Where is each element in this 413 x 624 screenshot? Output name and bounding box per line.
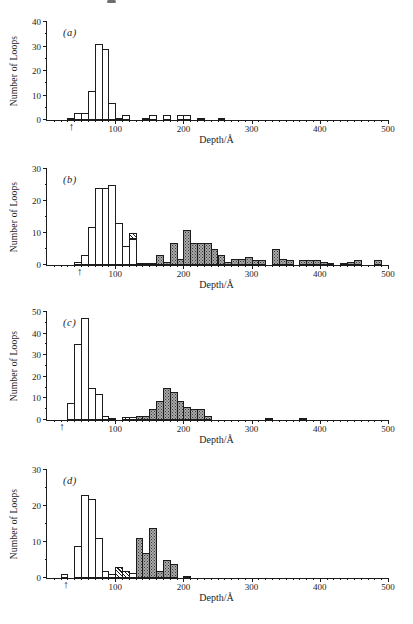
x-axis-minor-tick <box>245 265 246 267</box>
x-axis-minor-tick <box>272 578 273 580</box>
x-tick-label: 300 <box>245 124 259 134</box>
x-axis-minor-tick <box>272 420 273 422</box>
x-axis-minor-tick <box>286 420 287 422</box>
x-axis-minor-tick <box>211 578 212 580</box>
x-axis-minor-tick <box>347 120 348 122</box>
y-axis-minor-tick <box>45 343 48 344</box>
x-axis-minor-tick <box>313 420 314 422</box>
y-axis-major-tick <box>43 311 48 312</box>
x-tick-label: 100 <box>108 124 122 134</box>
x-axis-minor-tick <box>81 120 82 122</box>
depth-axis-label-d: Depth/Å <box>199 592 233 603</box>
x-axis-minor-tick <box>197 265 198 267</box>
scan-artifact <box>107 0 116 3</box>
y-axis-minor-tick <box>45 58 48 59</box>
x-tick-label: 100 <box>108 424 122 434</box>
bar-open-a <box>149 115 157 120</box>
x-axis-minor-tick <box>204 578 205 580</box>
x-axis-minor-tick <box>102 578 103 580</box>
x-axis-minor-tick <box>272 265 273 267</box>
y-tick-label: 10 <box>32 538 41 547</box>
arrow-marker-b: ↑ <box>77 266 83 276</box>
x-tick-label: 500 <box>381 269 395 279</box>
x-axis-minor-tick <box>340 120 341 122</box>
x-axis-minor-tick <box>108 578 109 580</box>
x-axis-minor-tick <box>381 265 382 267</box>
x-axis-minor-tick <box>170 265 171 267</box>
y-tick-label: 20 <box>32 502 41 511</box>
x-axis-minor-tick <box>190 420 191 422</box>
x-tick-label: 300 <box>245 582 259 592</box>
x-axis-minor-tick <box>61 265 62 267</box>
y-tick-label: 0 <box>37 261 42 270</box>
x-axis-minor-tick <box>108 420 109 422</box>
x-axis-minor-tick <box>327 420 328 422</box>
y-axis-major-tick <box>43 46 48 47</box>
y-axis-minor-tick <box>45 33 48 34</box>
bar-open-a <box>183 115 191 120</box>
y-tick-label: 10 <box>32 229 41 238</box>
x-axis-minor-tick <box>177 265 178 267</box>
y-axis-major-tick <box>43 21 48 22</box>
x-tick-label: 500 <box>381 582 395 592</box>
x-axis-minor-tick <box>306 120 307 122</box>
bar-open-a <box>163 115 171 120</box>
x-axis-minor-tick <box>368 420 369 422</box>
loops-axis-label-a: Number of Loops <box>9 36 19 107</box>
x-axis-minor-tick <box>381 120 382 122</box>
x-axis-minor-tick <box>190 265 191 267</box>
y-axis-major-tick <box>43 232 48 233</box>
y-tick-label: 0 <box>37 416 42 425</box>
x-tick-label: 400 <box>313 269 327 279</box>
depth-axis-label-a: Depth/Å <box>199 134 233 145</box>
bar-shaded-b <box>327 263 335 265</box>
x-axis-minor-tick <box>368 265 369 267</box>
x-axis-minor-tick <box>286 120 287 122</box>
y-axis-minor-tick <box>45 523 48 524</box>
x-axis-minor-tick <box>333 420 334 422</box>
x-axis-minor-tick <box>74 120 75 122</box>
x-axis-minor-tick <box>74 420 75 422</box>
y-axis-minor-tick <box>45 216 48 217</box>
y-axis-major-tick <box>43 95 48 96</box>
x-axis-minor-tick <box>374 578 375 580</box>
plot-area-a: 010203040100200300400500(a)↑ <box>46 22 388 121</box>
x-axis-minor-tick <box>149 420 150 422</box>
x-axis-minor-tick <box>333 265 334 267</box>
x-axis-minor-tick <box>374 120 375 122</box>
x-axis-minor-tick <box>142 420 143 422</box>
x-axis-minor-tick <box>136 265 137 267</box>
y-axis-minor-tick <box>45 82 48 83</box>
x-axis-minor-tick <box>54 420 55 422</box>
x-axis-minor-tick <box>197 420 198 422</box>
y-axis-major-tick <box>43 469 48 470</box>
x-axis-minor-tick <box>204 120 205 122</box>
x-axis-minor-tick <box>313 265 314 267</box>
x-axis-minor-tick <box>177 120 178 122</box>
x-tick-label: 100 <box>108 269 122 279</box>
x-axis-minor-tick <box>54 265 55 267</box>
plot-area-d: 0102030100200300400500(d)↑ <box>46 470 388 579</box>
x-axis-minor-tick <box>170 120 171 122</box>
x-axis-minor-tick <box>102 420 103 422</box>
x-axis-minor-tick <box>88 420 89 422</box>
x-axis-minor-tick <box>231 578 232 580</box>
x-axis-minor-tick <box>74 578 75 580</box>
bar-shaded-d <box>170 564 178 578</box>
x-axis-minor-tick <box>245 120 246 122</box>
y-axis-major-tick <box>43 200 48 201</box>
x-axis-minor-tick <box>142 120 143 122</box>
y-axis-major-tick <box>43 333 48 334</box>
x-axis-minor-tick <box>88 578 89 580</box>
plot-area-b: 0102030100200300400500(b)↑ <box>46 169 388 266</box>
x-axis-minor-tick <box>74 265 75 267</box>
x-axis-minor-tick <box>224 120 225 122</box>
x-axis-minor-tick <box>306 578 307 580</box>
x-axis-minor-tick <box>102 120 103 122</box>
x-axis-minor-tick <box>279 420 280 422</box>
x-axis-minor-tick <box>197 578 198 580</box>
x-axis-minor-tick <box>354 120 355 122</box>
x-axis-minor-tick <box>279 120 280 122</box>
x-axis-minor-tick <box>122 120 123 122</box>
bar-hatched-c <box>122 417 130 420</box>
